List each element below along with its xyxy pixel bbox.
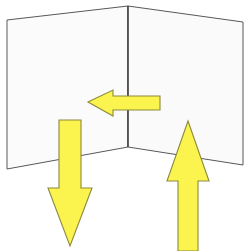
- corner-panels-illustration: [0, 0, 250, 251]
- scene-canvas: [0, 0, 250, 251]
